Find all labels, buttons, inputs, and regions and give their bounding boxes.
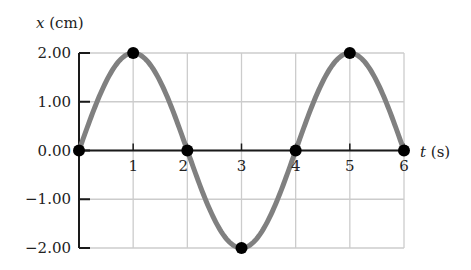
y-tick-label: 1.00 (38, 93, 71, 111)
data-point (398, 145, 410, 157)
y-tick-label: 2.00 (38, 44, 71, 62)
data-point (236, 242, 248, 254)
x-tick-label: 5 (345, 157, 355, 175)
data-point (290, 145, 302, 157)
y-tick-label: 0.00 (38, 142, 71, 160)
x-tick-label: 3 (237, 157, 247, 175)
sine-wave-chart: 2.001.000.00−1.00−2.00 123456 x (cm) t (… (0, 0, 471, 270)
y-tick-label: −1.00 (25, 190, 71, 208)
data-point (344, 47, 356, 59)
y-tick-label: −2.00 (25, 239, 71, 257)
y-tick-labels: 2.001.000.00−1.00−2.00 (25, 44, 71, 257)
data-point (73, 145, 85, 157)
data-point (181, 145, 193, 157)
x-tick-label: 2 (179, 157, 189, 175)
data-point (127, 47, 139, 59)
x-tick-label: 4 (291, 157, 301, 175)
x-tick-labels: 123456 (128, 157, 408, 175)
x-tick-label: 1 (128, 157, 138, 175)
x-tick-label: 6 (399, 157, 409, 175)
x-axis-label: t (s) (420, 143, 450, 161)
y-axis-label: x (cm) (36, 14, 84, 32)
